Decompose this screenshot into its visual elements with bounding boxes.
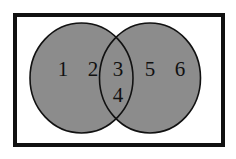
element-label-4: 4	[113, 83, 124, 107]
element-label-1: 1	[58, 57, 69, 81]
element-label-3: 3	[113, 57, 124, 81]
element-label-6: 6	[175, 57, 186, 81]
element-label-5: 5	[145, 57, 156, 81]
element-label-2: 2	[88, 57, 99, 81]
venn-diagram: 1 2 3 4 5 6	[0, 0, 236, 159]
